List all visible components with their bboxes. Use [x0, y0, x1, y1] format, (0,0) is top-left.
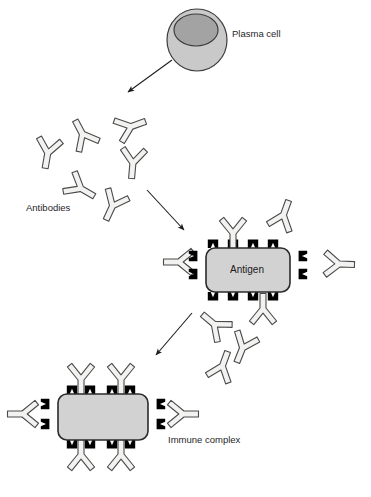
antibody-9 — [323, 248, 355, 278]
complex-epitope-bottom-1 — [85, 440, 95, 449]
antibody-3 — [111, 107, 150, 145]
label-plasma-cell: Plasma cell — [232, 28, 281, 39]
plasma-cell-nucleus — [174, 14, 218, 46]
antibody-4 — [118, 146, 149, 179]
antibody-12 — [203, 346, 241, 385]
antibody-1 — [32, 135, 66, 171]
complex-epitope-bottom-0 — [67, 440, 77, 449]
complex-epitope-left-0 — [41, 399, 50, 409]
complex-epitope-top-1 — [85, 385, 95, 394]
antigen-epitope-bottom-2 — [248, 292, 258, 301]
antigen-epitope-top-0 — [208, 239, 218, 248]
complex-epitope-top-0 — [67, 385, 77, 394]
complex-epitope-right-0 — [157, 399, 166, 409]
complex-antibody-left — [8, 400, 39, 429]
free-antibody-group — [32, 107, 355, 385]
complex-epitope-top-3 — [125, 385, 135, 394]
complex-epitope-bottom-3 — [125, 440, 135, 449]
antibody-2 — [62, 114, 102, 155]
antibody-8 — [264, 195, 302, 234]
immune-complex-body — [58, 394, 148, 440]
immunology-diagram: .ab-body { fill: #f2f2f0; stroke: #4a4a4… — [0, 0, 371, 497]
antigen-epitope-bottom-0 — [208, 292, 218, 301]
complex-epitope-right-1 — [157, 419, 166, 429]
bound-antibody-top — [219, 217, 248, 248]
antigen-epitope-bottom-3 — [268, 292, 278, 301]
complex-epitope-left-1 — [41, 419, 50, 429]
immune-complex-particle — [58, 394, 148, 440]
flow-arrows — [128, 60, 192, 355]
label-antigen: Antigen — [230, 264, 264, 275]
arrow-antigen-to-complex — [156, 313, 192, 355]
arrow-antibodies-to-antigen — [147, 190, 184, 230]
antibody-6 — [94, 186, 133, 226]
antigen-epitope-bottom-1 — [228, 292, 238, 301]
complex-epitope-bottom-2 — [107, 440, 117, 449]
label-immune-complex: Immune complex — [168, 434, 241, 445]
complex-epitope-top-2 — [107, 385, 117, 394]
antigen-epitope-top-2 — [248, 239, 258, 248]
antibody-10 — [193, 304, 235, 346]
plasma-cell — [167, 9, 227, 71]
label-antibodies: Antibodies — [26, 202, 71, 213]
antigen-epitope-right-1 — [299, 269, 308, 279]
diagram-canvas: .ab-body { fill: #f2f2f0; stroke: #4a4a4… — [0, 0, 371, 497]
antigen-epitope-right-0 — [299, 251, 308, 261]
antigen-epitope-top-3 — [268, 239, 278, 248]
complex-antibody-right — [167, 399, 198, 428]
antibody-11 — [224, 328, 262, 368]
arrow-cell-to-antibodies — [128, 60, 172, 92]
